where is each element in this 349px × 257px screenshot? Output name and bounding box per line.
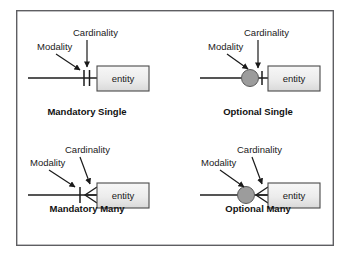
entity-label: entity bbox=[283, 73, 306, 84]
cardinality-annotation-label: Cardinality bbox=[73, 27, 118, 38]
entity-label: entity bbox=[112, 73, 135, 84]
modality-optional-circle bbox=[238, 187, 255, 204]
panel-caption: Optional Many bbox=[225, 203, 291, 214]
modality-annotation-label: Modality bbox=[208, 41, 244, 52]
er-notation-diagram: entity Cardinality Modality Mandatory Si… bbox=[0, 0, 349, 257]
modality-annotation-label: Modality bbox=[30, 157, 66, 168]
entity-label: entity bbox=[283, 190, 306, 201]
panel-caption: Mandatory Many bbox=[50, 203, 126, 214]
cardinality-annotation-label: Cardinality bbox=[244, 27, 289, 38]
panel-caption: Optional Single bbox=[223, 106, 293, 117]
entity-label: entity bbox=[112, 190, 135, 201]
cardinality-annotation-label: Cardinality bbox=[65, 144, 110, 155]
modality-annotation-label: Modality bbox=[201, 157, 237, 168]
cardinality-annotation-label: Cardinality bbox=[237, 144, 282, 155]
panel-caption: Mandatory Single bbox=[47, 106, 126, 117]
modality-annotation-label: Modality bbox=[37, 41, 73, 52]
modality-optional-circle bbox=[242, 70, 259, 87]
diagram-canvas: entity Cardinality Modality Mandatory Si… bbox=[0, 0, 349, 257]
